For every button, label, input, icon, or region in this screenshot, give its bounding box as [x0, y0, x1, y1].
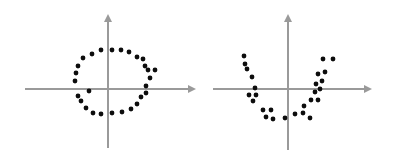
chart-panel-circular [0, 0, 200, 161]
y-axis-arrowhead-icon [104, 14, 112, 22]
data-point [243, 62, 248, 67]
x-axis-arrowhead-icon [188, 85, 196, 93]
data-point [318, 87, 323, 92]
data-point [254, 93, 259, 98]
parabolic-cluster-plot [200, 0, 401, 161]
data-point [301, 111, 306, 116]
data-point [271, 117, 276, 122]
data-point [323, 70, 328, 75]
data-point [331, 57, 336, 62]
data-point [143, 64, 148, 69]
data-point [76, 94, 81, 99]
data-point [261, 108, 266, 113]
data-point [321, 57, 326, 62]
data-point [283, 116, 288, 121]
data-point [129, 107, 134, 112]
y-axis-arrowhead-icon [284, 14, 292, 22]
data-point [119, 48, 124, 53]
data-point [141, 57, 146, 62]
data-point [148, 76, 153, 81]
chart-panel-parabolic [200, 0, 401, 161]
data-point [242, 54, 247, 59]
data-point [269, 108, 274, 113]
data-point [146, 68, 151, 73]
data-point [313, 90, 318, 95]
data-point [320, 79, 325, 84]
data-point [135, 102, 140, 107]
data-point [90, 52, 95, 57]
data-point [293, 112, 298, 117]
data-point [245, 67, 250, 72]
data-point [253, 86, 258, 91]
x-axis-arrowhead-icon [364, 85, 372, 93]
data-point [110, 48, 115, 53]
data-point [110, 111, 115, 116]
data-point [316, 72, 321, 77]
data-point [144, 91, 149, 96]
data-point [251, 99, 256, 104]
data-point [87, 89, 92, 94]
data-point [91, 111, 96, 116]
scatter-plot-figure [0, 0, 401, 161]
data-point [99, 48, 104, 53]
data-point [316, 98, 321, 103]
data-point [99, 112, 104, 117]
data-point [144, 84, 149, 89]
circular-cluster-plot [0, 0, 200, 161]
data-point [264, 115, 269, 120]
data-point [120, 110, 125, 115]
data-point [308, 116, 313, 121]
data-point [79, 99, 84, 104]
data-point [247, 93, 252, 98]
data-point [74, 71, 79, 76]
data-point [73, 79, 78, 84]
data-point [250, 75, 255, 80]
data-point [302, 104, 307, 109]
data-point [314, 82, 319, 87]
data-point [135, 55, 140, 60]
data-point [76, 64, 81, 69]
data-point [139, 95, 144, 100]
data-point [127, 50, 132, 55]
data-point [309, 98, 314, 103]
data-point [81, 56, 86, 61]
data-point [153, 68, 158, 73]
data-point [84, 106, 89, 111]
